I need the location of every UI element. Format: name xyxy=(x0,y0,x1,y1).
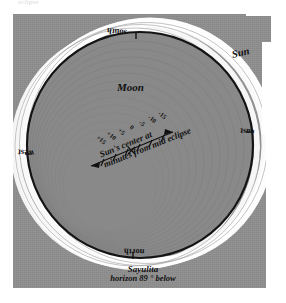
page-margin-left xyxy=(0,0,13,303)
page-margin-right-upper xyxy=(262,42,286,134)
compass-label-north: north xyxy=(124,247,145,258)
page-margin-top-right xyxy=(246,0,286,16)
compass-label-south: south xyxy=(107,26,128,38)
figure-page: eclipse xyxy=(0,0,286,303)
page-margin-bottom xyxy=(0,288,286,303)
compass-label-west: west xyxy=(18,147,35,158)
page-margin-right-lower xyxy=(266,134,286,303)
compass-label-east: east xyxy=(240,126,255,137)
moon-label: Moon xyxy=(117,81,144,93)
top-caption-text: eclipse xyxy=(18,0,138,8)
horizon-label: horizon 89 ° below xyxy=(0,273,286,283)
